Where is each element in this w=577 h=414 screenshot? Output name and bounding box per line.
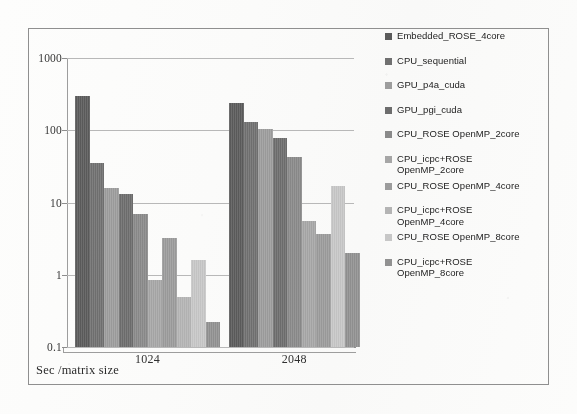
x-axis-category-label: 1024 [135,352,160,367]
legend-item[interactable]: CPU_icpc+ROSE OpenMP_2core [385,153,545,176]
bar [148,280,163,347]
legend-item[interactable]: CPU_ROSE OpenMP_4core [385,180,545,192]
bar [244,122,259,347]
legend-label: CPU_ROSE OpenMP_2core [397,128,520,140]
bar [177,297,192,348]
y-axis-tick [62,347,67,348]
bar [273,138,288,347]
bar [258,129,273,347]
bar [75,96,90,347]
legend-label: GPU_pgi_cuda [397,104,462,116]
legend-swatch-icon [385,234,392,241]
bar [302,221,317,347]
y-axis-tick [62,58,67,59]
bar [316,234,331,347]
legend-item[interactable]: Embedded_ROSE_4core [385,30,545,42]
legend-label: CPU_sequential [397,55,466,67]
legend-swatch-icon [385,131,392,138]
y-axis-tick-label: 10 [50,197,62,209]
y-axis-tick [62,203,67,204]
legend-swatch-icon [385,58,392,65]
bar [345,253,360,347]
chart-legend: Embedded_ROSE_4coreCPU_sequentialGPU_p4a… [385,30,545,283]
legend-label: GPU_p4a_cuda [397,79,465,91]
y-axis-tick [62,275,67,276]
bar-group [229,58,374,347]
legend-swatch-icon [385,156,392,163]
bar [162,238,177,347]
legend-swatch-icon [385,259,392,266]
legend-label: CPU_icpc+ROSE OpenMP_8core [397,256,472,279]
bar [119,194,134,347]
legend-item[interactable]: CPU_icpc+ROSE OpenMP_8core [385,256,545,279]
legend-swatch-icon [385,183,392,190]
gridline [67,347,354,348]
legend-swatch-icon [385,82,392,89]
bar-group [75,58,220,347]
y-axis-labels: 0.11101001000 [28,58,62,347]
bar [191,260,206,347]
legend-item[interactable]: CPU_sequential [385,55,545,67]
x-axis-category-label: 2048 [282,352,307,367]
legend-label: CPU_icpc+ROSE OpenMP_4core [397,204,472,227]
y-axis-tick [62,130,67,131]
legend-label: CPU_icpc+ROSE OpenMP_2core [397,153,472,176]
legend-item[interactable]: GPU_pgi_cuda [385,104,545,116]
chart-figure: 0.11101001000 10242048 Sec /matrix size … [0,0,577,414]
bar [133,214,148,347]
bar [104,188,119,347]
legend-label: CPU_ROSE OpenMP_4core [397,180,520,192]
legend-item[interactable]: CPU_ROSE OpenMP_8core [385,231,545,243]
legend-swatch-icon [385,107,392,114]
plot-area [67,58,354,347]
legend-item[interactable]: CPU_ROSE OpenMP_2core [385,128,545,140]
y-axis-tick-label: 100 [44,124,62,136]
legend-label: CPU_ROSE OpenMP_8core [397,231,520,243]
bar [229,103,244,347]
legend-label: Embedded_ROSE_4core [397,30,505,42]
bar [90,163,105,347]
bar [287,157,302,347]
bar [331,186,346,347]
legend-swatch-icon [385,33,392,40]
legend-item[interactable]: GPU_p4a_cuda [385,79,545,91]
legend-item[interactable]: CPU_icpc+ROSE OpenMP_4core [385,204,545,227]
bar [206,322,221,347]
y-axis-tick-label: 0.1 [47,341,62,353]
axis-title: Sec /matrix size [36,363,119,378]
legend-swatch-icon [385,207,392,214]
y-axis-tick-label: 1000 [38,52,62,64]
